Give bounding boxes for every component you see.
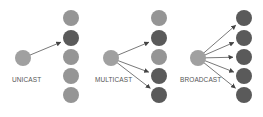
arrow-icon [27, 42, 60, 56]
receiver-node-inactive [151, 10, 167, 26]
source-node [15, 50, 31, 66]
receiver-node-inactive [63, 49, 79, 65]
multicast-panel [103, 10, 167, 103]
source-node [103, 50, 119, 66]
arrow-icon [202, 42, 234, 56]
arrow-icon [115, 60, 148, 72]
receiver-node-active [236, 30, 252, 46]
receiver-node-active [63, 30, 79, 46]
arrow-icon [202, 25, 236, 55]
receiver-node-active [236, 49, 252, 65]
broadcast-panel [190, 10, 252, 103]
arrow-icon [115, 61, 150, 88]
receiver-node-active [151, 68, 167, 84]
cast-types-diagram [0, 0, 263, 117]
receiver-node-inactive [63, 68, 79, 84]
receiver-node-active [236, 10, 252, 26]
receiver-node-inactive [151, 49, 167, 65]
receiver-node-active [236, 68, 252, 84]
arrow-icon [202, 61, 236, 88]
multicast-label: MULTICAST [95, 76, 132, 83]
unicast-label: UNICAST [12, 76, 41, 83]
receiver-node-inactive [63, 10, 79, 26]
arrow-icon [203, 57, 233, 58]
receiver-node-inactive [63, 87, 79, 103]
broadcast-label: BROADCAST [180, 76, 221, 83]
receiver-node-active [151, 87, 167, 103]
source-node [190, 50, 206, 66]
receiver-node-active [151, 30, 167, 46]
receiver-node-active [236, 87, 252, 103]
unicast-panel [15, 10, 79, 103]
arrow-icon [115, 42, 148, 56]
